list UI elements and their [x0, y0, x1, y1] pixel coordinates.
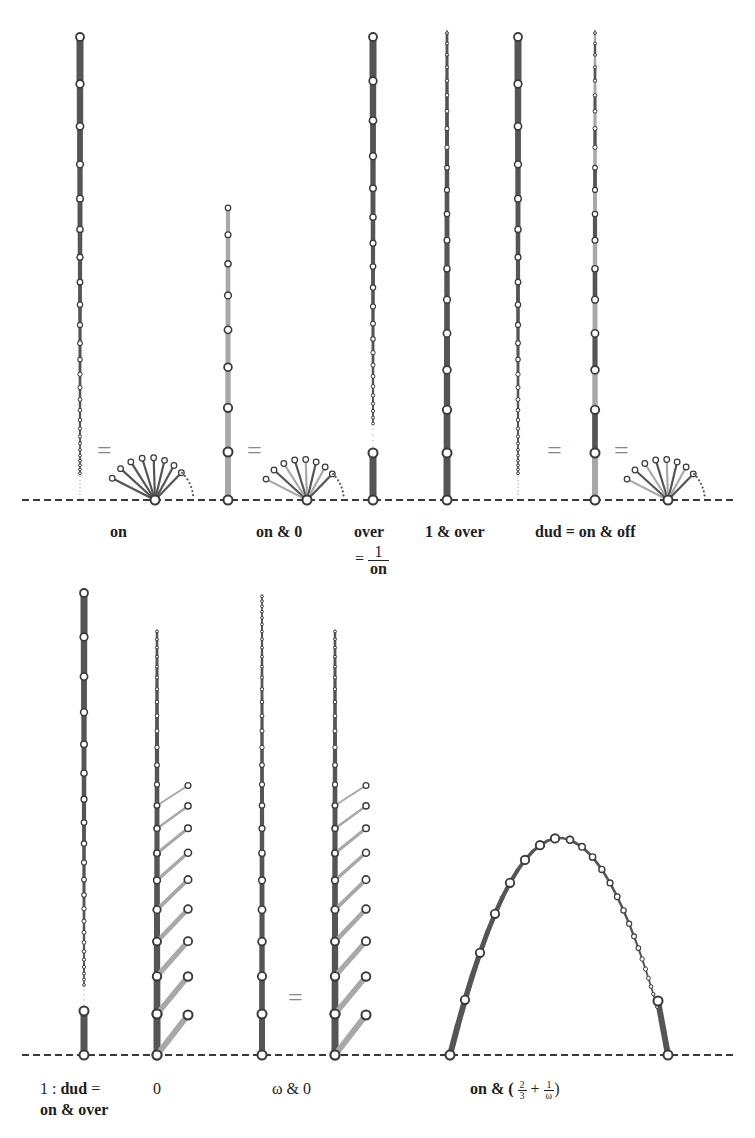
- node: [78, 442, 81, 445]
- node: [154, 877, 161, 884]
- edge: [157, 909, 188, 942]
- node: [664, 1051, 673, 1060]
- node: [517, 448, 520, 451]
- node: [370, 240, 376, 246]
- node: [591, 406, 599, 414]
- node: [579, 843, 586, 850]
- node: [224, 448, 233, 457]
- node: [461, 996, 469, 1004]
- edge: [335, 977, 366, 1015]
- fraction-denominator: on: [368, 561, 389, 577]
- dot: [79, 487, 80, 488]
- node: [371, 385, 375, 389]
- node: [445, 79, 448, 82]
- node: [225, 261, 231, 267]
- node: [331, 1051, 340, 1060]
- node: [515, 279, 521, 285]
- node: [259, 850, 265, 856]
- node: [303, 457, 309, 463]
- node: [76, 33, 84, 41]
- node: [154, 803, 159, 808]
- fraction-numerator: 1: [368, 544, 389, 561]
- node: [370, 185, 377, 192]
- node: [362, 972, 371, 981]
- node: [261, 638, 264, 641]
- dot: [83, 989, 84, 990]
- node: [614, 894, 620, 900]
- edge: [157, 786, 188, 806]
- node: [322, 464, 328, 470]
- node: [516, 385, 520, 389]
- node: [155, 714, 159, 718]
- node: [516, 357, 521, 362]
- node: [515, 322, 520, 327]
- node: [77, 195, 84, 202]
- node: [369, 117, 376, 124]
- node: [371, 416, 374, 419]
- dot: [188, 482, 190, 484]
- node: [674, 459, 680, 465]
- node: [371, 321, 376, 326]
- node: [155, 688, 158, 691]
- node: [592, 296, 599, 303]
- node: [632, 467, 638, 473]
- node: [589, 854, 595, 860]
- label-over: over: [354, 523, 384, 541]
- label-omega-and-zero: ω & 0: [272, 1080, 311, 1098]
- dot: [702, 486, 704, 488]
- node: [443, 406, 451, 414]
- node: [156, 655, 159, 658]
- two-thirds-fraction: 2 3: [518, 1080, 527, 1101]
- node: [333, 763, 338, 768]
- node: [362, 1011, 371, 1020]
- frac1-den: 3: [518, 1091, 527, 1101]
- node: [80, 1051, 89, 1060]
- node: [81, 709, 88, 716]
- edge: [335, 786, 366, 806]
- node: [224, 404, 232, 412]
- node: [591, 496, 600, 505]
- node: [445, 94, 449, 98]
- node: [258, 1010, 267, 1019]
- node: [445, 165, 450, 170]
- node: [370, 153, 377, 160]
- node: [118, 466, 124, 472]
- node: [82, 877, 87, 882]
- edge: [157, 977, 188, 1015]
- dot: [190, 486, 192, 488]
- node: [551, 834, 559, 842]
- dot: [186, 478, 188, 480]
- node: [155, 729, 159, 733]
- dot: [79, 476, 80, 477]
- node: [334, 638, 337, 641]
- node: [369, 496, 378, 505]
- node: [369, 77, 377, 85]
- node: [77, 279, 83, 285]
- node: [369, 33, 377, 41]
- node: [517, 459, 520, 462]
- node: [515, 254, 521, 260]
- edge: [335, 880, 366, 910]
- node: [184, 876, 191, 883]
- node: [128, 459, 134, 465]
- dot: [517, 497, 518, 498]
- node: [362, 937, 370, 945]
- node: [156, 630, 159, 633]
- edge: [157, 880, 188, 910]
- node: [445, 126, 449, 130]
- dot: [372, 446, 373, 447]
- node: [516, 408, 520, 412]
- node: [363, 825, 370, 832]
- node: [259, 803, 264, 808]
- node: [153, 972, 161, 980]
- node: [664, 496, 673, 505]
- node: [260, 763, 265, 768]
- node: [594, 53, 597, 56]
- node: [185, 825, 192, 832]
- dot: [83, 994, 84, 995]
- node: [536, 841, 544, 849]
- node: [225, 205, 230, 210]
- dot: [517, 476, 518, 477]
- node: [261, 600, 264, 603]
- node: [303, 496, 312, 505]
